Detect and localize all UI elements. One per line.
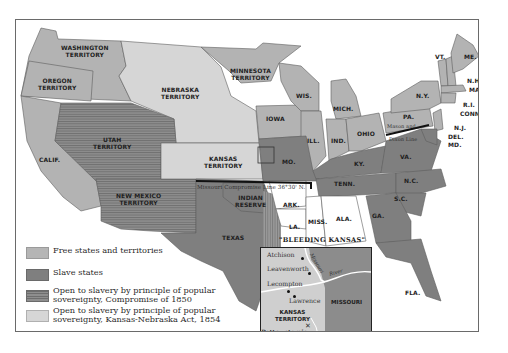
- label-conn: CONN.: [460, 110, 479, 117]
- leavenworth-dot: [308, 272, 311, 275]
- legend-label: Free states and territories: [53, 246, 163, 255]
- label-miss: MISS.: [308, 218, 327, 225]
- swatch-slave: [26, 269, 49, 281]
- label-indian-reserve: INDIAN RESERVE: [235, 194, 266, 208]
- label-md: MD.: [448, 141, 462, 148]
- label-del: DEL.: [448, 133, 464, 140]
- label-vt: VT.: [435, 53, 445, 60]
- label-ala: ALA.: [336, 215, 352, 222]
- label-mason-dixon-1: Mason and: [387, 123, 416, 130]
- town-leavenworth: Leavenworth: [267, 265, 309, 272]
- label-mass: MASS.: [469, 86, 479, 93]
- label-texas: TEXAS: [222, 234, 244, 241]
- label-nh: N.H.: [467, 77, 479, 84]
- label-mason-dixon-2: Dixon Line: [389, 136, 417, 143]
- legend-item-slave: Slave states: [26, 268, 103, 281]
- label-wis: WIS.: [296, 92, 312, 99]
- town-lawrence: Lawrence: [289, 297, 320, 304]
- label-inset-kansas-territory: KANSAS TERRITORY: [275, 309, 310, 323]
- town-atchison: Atchison: [267, 251, 295, 258]
- label-ky: KY.: [354, 160, 365, 167]
- label-pa: PA.: [403, 113, 414, 120]
- label-mich: MICH.: [333, 105, 353, 112]
- label-pottawatomie-massacre: Pottawatomie Massacre: [261, 328, 307, 332]
- label-oregon: OREGON TERRITORY: [38, 77, 76, 91]
- legend-item-free: Free states and territories: [26, 246, 163, 259]
- label-nebraska: NEBRASKA TERRITORY: [161, 86, 199, 100]
- label-ny: N.Y.: [416, 92, 429, 99]
- legend-label: Open to slavery by principle of popular …: [53, 306, 220, 324]
- label-ga: GA.: [372, 212, 384, 219]
- legend-label: Slave states: [53, 268, 103, 277]
- wisconsin: [279, 63, 319, 111]
- label-fla: FLA.: [405, 289, 420, 296]
- lecompton-dot: [287, 290, 290, 293]
- label-la: LA.: [289, 223, 300, 230]
- inset-title: "BLEEDING KANSAS": [279, 237, 365, 244]
- label-iowa: IOWA: [266, 115, 285, 122]
- label-nc: N.C.: [404, 177, 418, 184]
- atchison-dot: [301, 257, 304, 260]
- legend-item-kansas-nebraska-1854: Open to slavery by principle of popular …: [26, 306, 220, 324]
- swatch-free: [26, 247, 49, 259]
- lawrence-dot: [293, 295, 296, 298]
- label-ark: ARK.: [283, 201, 300, 208]
- new-mexico-territory: [96, 179, 196, 233]
- label-washington: WASHINGTON TERRITORY: [61, 44, 109, 58]
- label-mo: MO.: [282, 158, 296, 165]
- swatch-kansas-nebraska-1854: [26, 310, 49, 322]
- label-minnesota: MINNESOTA TERRITORY: [230, 67, 271, 81]
- label-tenn: TENN.: [334, 180, 355, 187]
- bleeding-kansas-inset: Atchison Leavenworth Lecompton Lawrence …: [260, 247, 372, 332]
- connecticut: [441, 93, 456, 103]
- map-frame: WASHINGTON TERRITORY OREGON TERRITORY NE…: [15, 19, 479, 332]
- massachusetts: [441, 85, 466, 93]
- label-inset-missouri: MISSOURI: [331, 299, 362, 306]
- label-me: ME.: [464, 53, 477, 60]
- label-ri: R.I.: [463, 101, 475, 108]
- label-nj: N.J.: [454, 124, 466, 131]
- label-sc: S.C.: [394, 195, 408, 202]
- michigan: [331, 79, 361, 119]
- legend-item-compromise-1850: Open to slavery by principle of popular …: [26, 286, 216, 304]
- label-utah: UTAH TERRITORY: [93, 136, 131, 150]
- new-jersey: [433, 109, 443, 131]
- legend-label: Open to slavery by principle of popular …: [53, 286, 216, 304]
- iowa: [256, 105, 306, 139]
- label-ind: IND.: [331, 137, 346, 144]
- label-new-mexico: NEW MEXICO TERRITORY: [116, 192, 161, 206]
- label-missouri-compromise-line: Missouri Compromise Line 36°30' N.: [197, 184, 305, 191]
- label-kansas: KANSAS TERRITORY: [204, 155, 242, 169]
- label-calif: CALIF.: [39, 156, 60, 163]
- label-ill: ILL.: [307, 137, 320, 144]
- swatch-compromise-1850: [26, 290, 49, 302]
- town-lecompton: Lecompton: [267, 280, 303, 287]
- label-va: VA.: [400, 153, 412, 160]
- label-ohio: OHIO: [357, 130, 375, 137]
